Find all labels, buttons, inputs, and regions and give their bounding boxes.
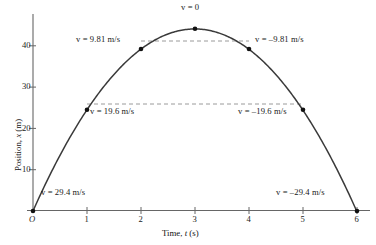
annotation-v-left-196: v = 19.6 m/s bbox=[90, 107, 134, 116]
y-axis-title-var: x bbox=[13, 134, 23, 138]
annotation-v-top: v = 0 bbox=[181, 3, 199, 12]
annotation-v-right-294: v = –29.4 m/s bbox=[276, 188, 325, 197]
data-point-t4 bbox=[247, 47, 252, 52]
y-tick-label-10: 10 bbox=[22, 165, 31, 174]
x-tick-label-6: 6 bbox=[355, 215, 359, 224]
data-point-t1 bbox=[85, 107, 90, 112]
x-tick-label-4: 4 bbox=[247, 215, 251, 224]
data-point-t5 bbox=[301, 107, 306, 112]
annotation-v-left-294: v = 29.4 m/s bbox=[41, 188, 85, 197]
annotation-v-right-196: v = –19.6 m/s bbox=[238, 107, 287, 116]
y-axis-title-unit: (m) bbox=[13, 119, 23, 134]
x-tick-label-3: 3 bbox=[193, 215, 197, 224]
y-tick-label-20: 20 bbox=[22, 124, 31, 133]
y-axis-title-prefix: Position, bbox=[13, 138, 23, 171]
x-axis-title-unit: (s) bbox=[187, 228, 198, 238]
data-point-t3 bbox=[193, 26, 198, 31]
x-tick-label-5: 5 bbox=[301, 215, 305, 224]
chart-canvas bbox=[0, 0, 376, 245]
position-curve bbox=[33, 29, 357, 212]
y-tick-label-40: 40 bbox=[22, 41, 31, 50]
x-tick-label-2: 2 bbox=[139, 215, 143, 224]
data-point-t0 bbox=[31, 209, 36, 214]
data-point-t2 bbox=[139, 47, 144, 52]
x-tick-label-1: 1 bbox=[85, 215, 89, 224]
x-axis-title: Time, t (s) bbox=[162, 229, 199, 238]
y-tick-label-30: 30 bbox=[22, 82, 31, 91]
annotation-v-right-981: v = –9.81 m/s bbox=[255, 35, 304, 44]
x-axis-title-prefix: Time, bbox=[162, 228, 185, 238]
y-axis-title: Position, x (m) bbox=[13, 119, 23, 171]
annotation-v-left-981: v = 9.81 m/s bbox=[76, 35, 120, 44]
data-point-t6 bbox=[355, 209, 360, 214]
x-tick-label-origin: O bbox=[29, 215, 35, 224]
